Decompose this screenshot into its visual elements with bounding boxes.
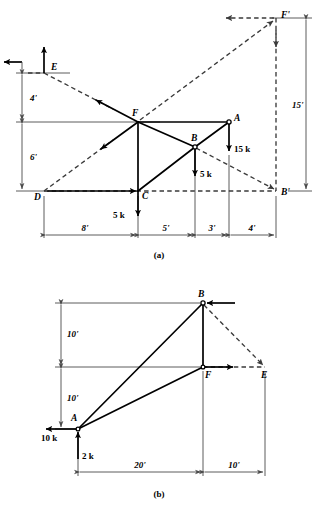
panel-a-horizontal-dimensions: 8' 5' 3' 4' <box>46 223 274 235</box>
label-joint-b-b: B <box>197 289 204 299</box>
panel-b-dashed-members <box>203 305 265 367</box>
dim-label-15ft: 15' <box>292 100 304 110</box>
joint-b <box>201 301 205 305</box>
dashed-member-be <box>204 305 263 365</box>
label-joint-e: E <box>50 62 57 72</box>
dim-label-4ft: 4' <box>247 223 256 233</box>
label-load-2k: 2 k <box>82 451 94 461</box>
label-joint-f-b: F <box>204 370 212 380</box>
caption-panel-b: (b) <box>154 489 165 499</box>
joint-f <box>201 365 205 369</box>
label-joint-b: B <box>190 133 197 143</box>
dim-label-4ft-vert: 4' <box>29 93 38 103</box>
label-load-15k: 15 k <box>234 144 250 154</box>
dim-label-10ft-lower: 10' <box>67 393 79 403</box>
panel-b-vertical-dimensions: 10' 10' <box>61 305 79 427</box>
dim-label-8ft: 8' <box>81 223 89 233</box>
panel-b-solid-members <box>78 303 235 429</box>
dim-label-3ft: 3' <box>207 223 216 233</box>
joint-a <box>227 120 231 124</box>
member-cb <box>138 147 195 191</box>
caption-panel-a: (a) <box>154 250 165 260</box>
dim-label-5ft: 5' <box>162 223 170 233</box>
label-joint-f: F <box>131 108 139 118</box>
member-ba <box>195 122 229 147</box>
panel-b-horizontal-dimensions: 20' 10' <box>80 460 263 472</box>
label-joint-e-b: E <box>260 370 267 380</box>
label-joint-d: D <box>33 192 41 202</box>
member-fd <box>101 122 138 149</box>
label-load-5k-c: 5 k <box>113 210 125 220</box>
panel-a-load-arrows <box>138 122 229 216</box>
joint-a <box>76 427 80 431</box>
dim-label-20ft: 20' <box>133 460 146 470</box>
dashed-member-f-fprime <box>140 21 273 120</box>
label-load-10k: 10 k <box>41 433 57 443</box>
label-load-5k-b: 5 k <box>200 169 212 179</box>
panel-a-extension-lines <box>16 18 312 238</box>
dim-label-10ft-upper: 10' <box>67 329 79 339</box>
dim-label-6ft-vert: 6' <box>30 152 38 162</box>
panel-a-vertical-dimensions-left: 4' 6' <box>22 75 38 189</box>
label-joint-a-b: A <box>70 413 77 423</box>
label-joint-a: A <box>233 113 240 123</box>
label-joint-c: C <box>142 191 149 201</box>
truss-figure-svg: E F A B C D F' B' 15 k 5 k 5 k 8' 5' 3' … <box>0 0 318 512</box>
member-af <box>78 367 203 429</box>
panel-a-vertical-dimension-right: 15' <box>292 20 306 189</box>
label-joint-fprime: F' <box>280 10 290 20</box>
joint-b <box>193 145 197 149</box>
label-joint-bprime: B' <box>280 187 290 197</box>
member-ab <box>78 303 203 429</box>
dim-label-10ft-horiz: 10' <box>228 460 240 470</box>
member-fb <box>138 122 195 147</box>
panel-a: E F A B C D F' B' 15 k 5 k 5 k 8' 5' 3' … <box>4 10 312 260</box>
panel-b: B F E A 10 k 2 k 20' 10' 10' 10' (b) <box>41 289 267 499</box>
figure-container: E F A B C D F' B' 15 k 5 k 5 k 8' 5' 3' … <box>0 0 318 512</box>
panel-a-dashed-members <box>28 18 276 191</box>
